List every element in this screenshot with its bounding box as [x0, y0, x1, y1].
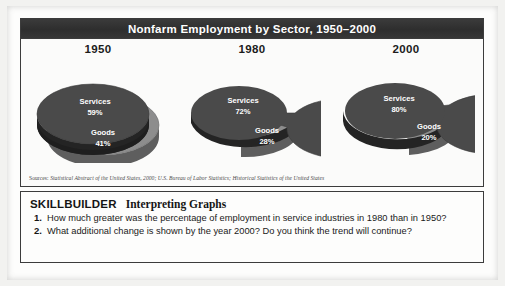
question-2-number: 2.	[30, 225, 42, 237]
pie-graphic-1950: Services 59% Goods 41%	[21, 59, 175, 163]
skillbuilder-question-2: 2. What additional change is shown by th…	[30, 225, 474, 237]
skillbuilder-box: SKILLBUILDER Interpreting Graphs 1. How …	[20, 191, 484, 263]
goods-label-1980: Goods	[255, 126, 279, 135]
question-1-number: 1.	[30, 212, 42, 224]
pie-svg-1950: Services 59% Goods 41%	[29, 59, 167, 163]
skillbuilder-question-1: 1. How much greater was the percentage o…	[30, 212, 474, 224]
services-value-1950: 59%	[87, 108, 102, 117]
sources-text: Statistical Abstract of the United State…	[50, 175, 324, 181]
goods-value-1980: 28%	[259, 137, 274, 146]
sources-line: Sources: Statistical Abstract of the Uni…	[21, 175, 483, 181]
question-2-text: What additional change is shown by the y…	[47, 225, 412, 237]
pie-chart-2000: 2000 Services 80% Goods	[329, 39, 483, 164]
pie-charts-row: 1950 Services 59%	[21, 39, 483, 164]
question-1-text: How much greater was the percentage of e…	[47, 212, 446, 224]
chart-title: Nonfarm Employment by Sector, 1950–2000	[128, 23, 376, 35]
services-label-1980: Services	[227, 96, 258, 105]
skillbuilder-skill-name: Interpreting Graphs	[126, 198, 226, 210]
skillbuilder-label: SKILLBUILDER	[30, 198, 117, 210]
skillbuilder-heading: SKILLBUILDER Interpreting Graphs	[30, 198, 474, 210]
chart-panel: Nonfarm Employment by Sector, 1950–2000 …	[20, 18, 484, 187]
pie-year-label-1950: 1950	[21, 43, 175, 55]
pie-chart-1950: 1950 Services 59%	[21, 39, 175, 164]
services-label-1950: Services	[79, 97, 110, 106]
goods-label-2000: Goods	[417, 122, 441, 131]
pie-svg-1980: Services 72% Goods 28%	[183, 59, 321, 163]
pie-chart-1980: 1980 Services 72% Goods	[175, 39, 329, 164]
goods-label-1950: Goods	[91, 128, 115, 137]
services-label-2000: Services	[383, 94, 414, 103]
services-value-1980: 72%	[235, 107, 250, 116]
pie-svg-2000: Services 80% Goods 20%	[337, 59, 475, 163]
goods-value-1950: 41%	[95, 139, 110, 148]
pie-year-label-1980: 1980	[175, 43, 329, 55]
textbook-figure-page: Nonfarm Employment by Sector, 1950–2000 …	[0, 0, 505, 286]
chart-title-bar: Nonfarm Employment by Sector, 1950–2000	[21, 19, 483, 39]
services-value-2000: 80%	[391, 105, 406, 114]
pie-graphic-1980: Services 72% Goods 28%	[175, 59, 329, 163]
sources-lead: Sources:	[29, 175, 49, 181]
goods-value-2000: 20%	[421, 133, 436, 142]
pie-year-label-2000: 2000	[329, 43, 483, 55]
pie-graphic-2000: Services 80% Goods 20%	[329, 59, 483, 163]
